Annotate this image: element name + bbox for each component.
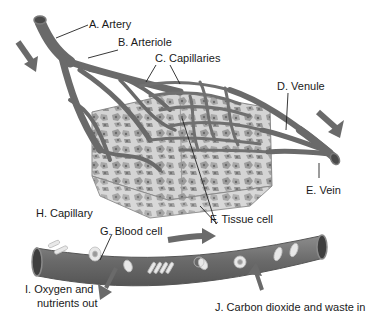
capillary-flow-arrow	[168, 228, 216, 244]
artery-opening	[34, 16, 46, 24]
capillary-tube	[32, 235, 327, 286]
capillary-exchange-diagram: A. Artery B. Arteriole C. Capillaries D.…	[0, 0, 386, 329]
label-oxygen-line1: I. Oxygen and	[25, 283, 94, 296]
label-blood-cell: G. Blood cell	[100, 225, 162, 238]
inflow-arrow	[18, 42, 38, 72]
label-capillary: H. Capillary	[36, 207, 93, 220]
label-artery: A. Artery	[89, 18, 131, 31]
label-venule: D. Venule	[277, 80, 325, 93]
outflow-arrow	[318, 112, 344, 138]
label-carbon-dioxide: J. Carbon dioxide and waste in	[215, 301, 365, 314]
label-oxygen-line2: nutrients out	[37, 297, 98, 310]
label-arteriole: B. Arteriole	[118, 36, 172, 49]
label-tissue-cell: F. Tissue cell	[210, 213, 273, 226]
diagram-artwork	[0, 0, 386, 329]
label-vein: E. Vein	[306, 184, 341, 197]
label-capillaries: C. Capillaries	[155, 52, 220, 65]
